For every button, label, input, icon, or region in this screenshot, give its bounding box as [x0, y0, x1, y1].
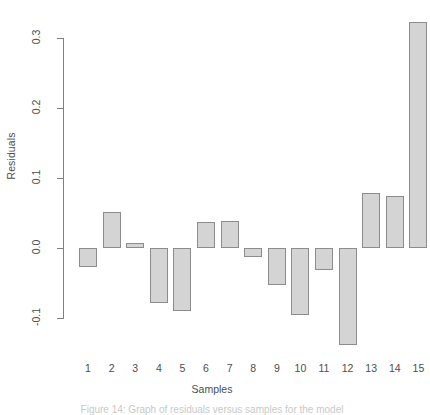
plot-area: 123456789101112131415 — [63, 0, 424, 360]
x-axis-tick-label: 13 — [359, 362, 383, 374]
bar — [126, 243, 144, 248]
x-axis-tick-label: 4 — [147, 362, 171, 374]
bar — [362, 193, 380, 248]
x-axis-tick-label: 7 — [218, 362, 242, 374]
y-axis-tick-label: 0.3 — [30, 20, 42, 54]
y-axis-tick-label: 0.2 — [30, 90, 42, 124]
x-axis-tick-label: 15 — [406, 362, 430, 374]
y-axis-title: Residuals — [5, 126, 17, 186]
x-axis-tick-label: 6 — [194, 362, 218, 374]
bar — [197, 222, 215, 248]
bar — [268, 248, 286, 285]
bar — [103, 212, 121, 248]
x-axis-tick-label: 11 — [312, 362, 336, 374]
y-axis-tick-label: -0.1 — [30, 300, 42, 334]
bar — [291, 248, 309, 315]
figure-caption: Figure 14: Graph of residuals versus sam… — [0, 404, 424, 415]
bar — [339, 248, 357, 345]
x-axis-tick-label: 3 — [123, 362, 147, 374]
bar — [409, 22, 427, 248]
y-axis-tick-label: 0.1 — [30, 160, 42, 194]
x-axis-tick-label: 10 — [288, 362, 312, 374]
bar — [315, 248, 333, 270]
x-axis-tick-label: 5 — [170, 362, 194, 374]
x-axis-tick-label: 9 — [265, 362, 289, 374]
x-axis-tick-label: 2 — [100, 362, 124, 374]
y-axis-tick-label: 0.0 — [30, 230, 42, 264]
x-axis-title: Samples — [0, 383, 424, 395]
x-axis-tick-label: 12 — [336, 362, 360, 374]
x-axis-tick-label: 14 — [383, 362, 407, 374]
bar — [173, 248, 191, 311]
bar — [244, 248, 262, 257]
x-axis-tick-label: 8 — [241, 362, 265, 374]
x-axis-tick-label: 1 — [76, 362, 100, 374]
bar — [386, 196, 404, 248]
bar — [150, 248, 168, 303]
bar — [79, 248, 97, 267]
bar — [221, 221, 239, 248]
